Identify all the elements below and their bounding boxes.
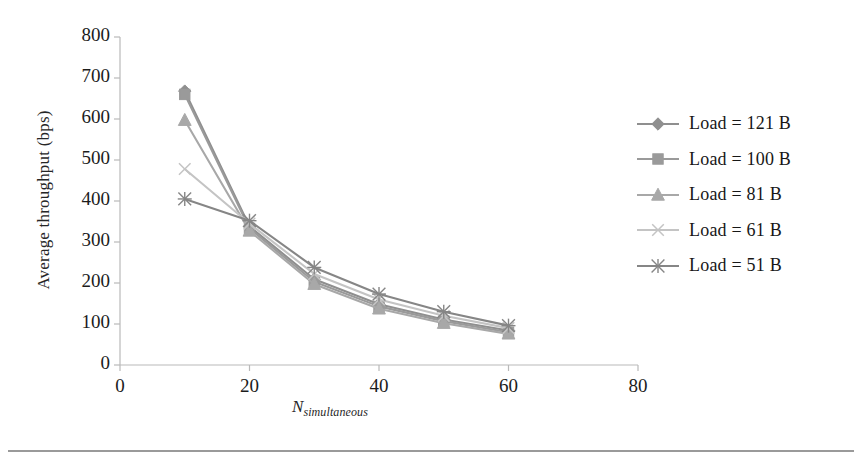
legend-marker-star-icon: [636, 256, 680, 276]
legend-item: Load = 100 B: [636, 142, 861, 178]
y-axis-tick-label: 200: [52, 270, 110, 292]
y-axis-tick-label: 500: [52, 147, 110, 169]
legend-marker-x-cross-icon: [636, 220, 680, 240]
x-axis-tick-label: 0: [100, 375, 140, 397]
x-axis-tick-label: 60: [489, 375, 529, 397]
legend-marker-square-icon: [636, 149, 680, 169]
chart-series: [178, 113, 515, 339]
legend-label: Load = 121 B: [680, 113, 791, 134]
bottom-horizontal-rule: [8, 450, 854, 452]
x-axis-tick-label: 40: [359, 375, 399, 397]
legend-item: Load = 81 B: [636, 177, 861, 213]
legend-label: Load = 81 B: [680, 184, 782, 205]
chart-plot-area: 0100200300400500600700800 020406080 Aver…: [0, 0, 660, 440]
x-axis-tick-label: 20: [230, 375, 270, 397]
x-axis-title: Nsimultaneous: [200, 397, 460, 420]
y-axis-title: Average throughput (bps): [34, 60, 54, 340]
figure-container: 0100200300400500600700800 020406080 Aver…: [0, 0, 861, 462]
y-axis-tick-label: 300: [52, 229, 110, 251]
chart-series-layer: [178, 85, 516, 339]
x-axis-title-subscript: simultaneous: [303, 405, 368, 419]
y-axis-tick-label: 400: [52, 188, 110, 210]
chart-series: [179, 85, 515, 337]
y-axis-tick-label: 600: [52, 106, 110, 128]
y-axis-tick-label: 800: [52, 24, 110, 46]
chart-series: [178, 192, 516, 333]
y-axis-tick-label: 700: [52, 65, 110, 87]
legend-marker-diamond-icon: [636, 114, 680, 134]
legend-marker-triangle-icon: [636, 185, 680, 205]
x-axis-tick-label: 80: [618, 375, 658, 397]
y-axis-tick-label: 100: [52, 311, 110, 333]
legend-item: Load = 121 B: [636, 106, 861, 142]
x-axis-title-base: N: [292, 397, 303, 416]
chart-axes: [114, 37, 638, 371]
legend-label: Load = 51 B: [680, 255, 782, 276]
legend-label: Load = 61 B: [680, 220, 782, 241]
legend-item: Load = 61 B: [636, 213, 861, 249]
y-axis-tick-label: 0: [52, 352, 110, 374]
legend-item: Load = 51 B: [636, 248, 861, 284]
chart-legend: Load = 121 BLoad = 100 BLoad = 81 BLoad …: [636, 106, 861, 284]
legend-label: Load = 100 B: [680, 149, 791, 170]
